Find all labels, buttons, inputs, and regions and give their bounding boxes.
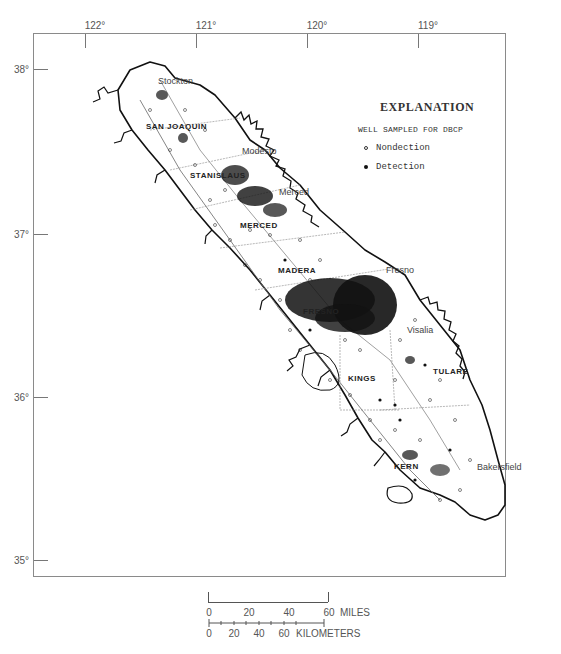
legend-label: Detection [376, 162, 425, 172]
legend-title: EXPLANATION [380, 100, 500, 115]
legend-subtitle: WELL SAMPLED FOR DBCP [358, 125, 500, 134]
county-madera: MADERA [278, 266, 316, 275]
buena-vista-lake [387, 486, 412, 503]
place-visalia: Visalia [407, 325, 433, 335]
km-tick-60: 60 [278, 628, 289, 639]
miles-tick-20: 20 [243, 607, 254, 618]
legend-item-nondetection: Nondection [364, 143, 500, 153]
km-tick-40: 40 [253, 628, 264, 639]
scale-line [208, 602, 328, 603]
legend-label: Nondection [376, 143, 430, 153]
scale-tick [208, 592, 209, 602]
place-modesto: Modesto [242, 146, 277, 156]
scale-tick [328, 592, 329, 602]
county-tulare: TULARE [433, 367, 468, 376]
place-bakersfield: Bakersfield [477, 462, 522, 472]
place-fresno: Fresno [386, 265, 414, 275]
filled-circle-icon [364, 165, 368, 169]
legend-item-detection: Detection [364, 162, 500, 172]
km-unit: KILOMETERS [296, 628, 360, 639]
place-merced: Merced [279, 187, 309, 197]
km-tick-20: 20 [228, 628, 239, 639]
km-scale-line [200, 618, 340, 628]
open-circle-icon [364, 146, 368, 150]
place-stockton: Stockton [158, 76, 193, 86]
county-san-joaquin: SAN JOAQUIN [146, 122, 207, 131]
miles-unit: MILES [340, 607, 370, 618]
km-tick-0: 0 [206, 628, 212, 639]
scale-bar: 0 20 40 60 MILES 0 20 40 60 KILOMETERS [200, 580, 370, 640]
miles-tick-60: 60 [323, 607, 334, 618]
miles-tick-0: 0 [206, 607, 212, 618]
map-legend: EXPLANATION WELL SAMPLED FOR DBCP Nondec… [360, 100, 500, 172]
valley-map [0, 0, 561, 654]
county-fresno: FRESNO [303, 307, 339, 316]
county-stanislaus: STANISLAUS [190, 171, 246, 180]
county-merced: MERCED [240, 221, 278, 230]
miles-tick-40: 40 [283, 607, 294, 618]
county-kings: KINGS [348, 374, 376, 383]
county-kern: KERN [394, 462, 419, 471]
